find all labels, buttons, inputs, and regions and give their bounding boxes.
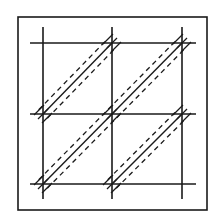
grid-diagram: [0, 0, 217, 217]
